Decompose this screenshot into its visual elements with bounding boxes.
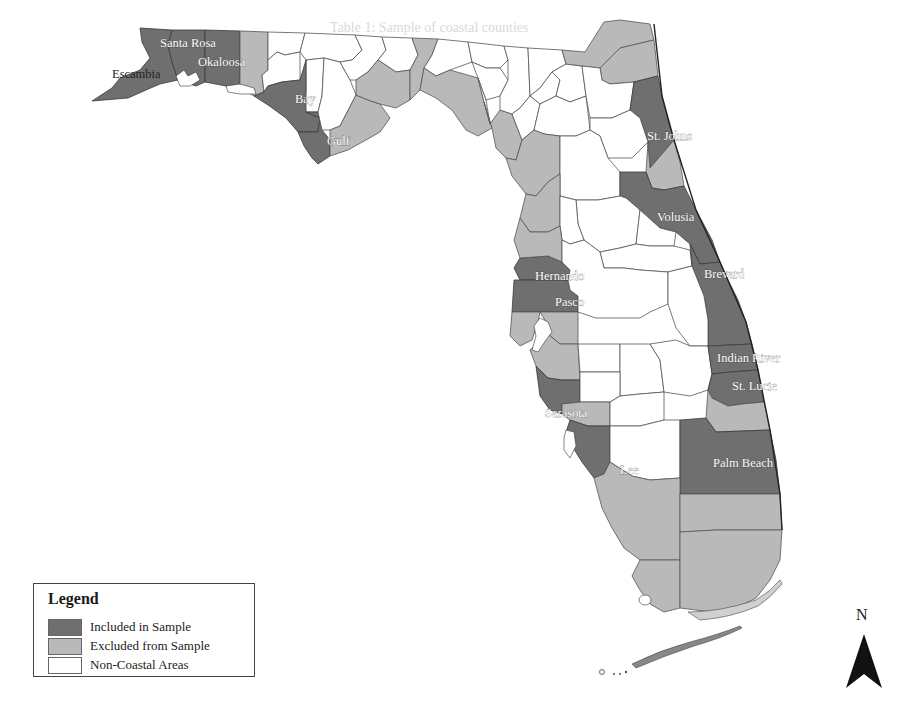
legend-label-excluded: Excluded from Sample [90, 638, 210, 654]
legend-label-included: Included in Sample [90, 619, 191, 635]
county-glades [610, 392, 664, 426]
charlotte-harbor [564, 430, 576, 458]
label-okaloosa: Okaloosa [198, 55, 246, 69]
legend-swatch-included [48, 619, 82, 636]
label-santa-rosa: Santa Rosa [160, 36, 216, 50]
legend-label-noncoastal: Non-Coastal Areas [90, 657, 189, 673]
label-st-johns: St. Johns [647, 129, 692, 143]
label-brevard: Brevard [704, 267, 745, 281]
county-broward [680, 494, 782, 532]
county-jackson [300, 33, 362, 62]
legend-item-included: Included in Sample [48, 618, 191, 636]
label-volusia: Volusia [657, 210, 695, 224]
legend-title: Legend [48, 590, 99, 608]
label-st-lucie: St. Lucie [732, 379, 778, 393]
label-escambia: Escambia [112, 67, 161, 81]
label-indian-river: Indian River [717, 351, 781, 365]
county-hardee [578, 344, 620, 372]
label-pasco: Pasco [555, 295, 584, 309]
legend-swatch-noncoastal [48, 657, 82, 674]
north-label: N [856, 606, 868, 624]
label-bay: Bay [295, 92, 316, 106]
label-hernando: Hernando [535, 269, 584, 283]
label-palm-beach: Palm Beach [713, 456, 774, 470]
label-sarasota: Sarasota [545, 406, 588, 420]
florida-bay-lake [639, 595, 651, 605]
county-desoto [580, 372, 620, 402]
north-arrow: N [844, 606, 884, 686]
north-arrow-icon [844, 632, 884, 692]
map-legend: Legend Included in Sample Excluded from … [33, 583, 255, 677]
label-gulf: Gulf [327, 134, 351, 148]
label-lee: Lee [620, 463, 639, 477]
legend-item-noncoastal: Non-Coastal Areas [48, 656, 189, 674]
legend-swatch-excluded [48, 638, 82, 655]
county-monroe [632, 560, 680, 612]
legend-item-excluded: Excluded from Sample [48, 637, 210, 655]
